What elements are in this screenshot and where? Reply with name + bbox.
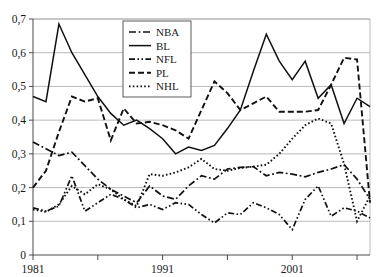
chart-legend: NBABLNFLPLNHL [123, 21, 191, 97]
x-axis: 198119912001 [22, 255, 371, 275]
y-tick-label: 0,5 [12, 80, 27, 93]
legend-label-bl: BL [156, 40, 170, 52]
y-tick-label: 0,6 [12, 47, 27, 60]
x-tick-label-2001: 2001 [281, 263, 304, 275]
series-line-bl [33, 24, 370, 154]
x-tick-label-1981: 1981 [22, 263, 45, 275]
y-tick-label: 0,4 [12, 114, 27, 127]
legend-label-nhl: NHL [156, 80, 179, 92]
y-tick-label: 0,1 [12, 215, 27, 228]
y-tick-label: 0,2 [12, 182, 27, 195]
y-tick-label: 0,3 [12, 148, 27, 161]
chart-canvas: 00,10,20,30,40,50,60,7 198119912001 NBAB… [0, 0, 382, 277]
series-lines [33, 24, 370, 230]
y-tick-label: 0 [20, 249, 26, 261]
legend-label-nba: NBA [156, 26, 179, 38]
series-line-nhl [33, 118, 370, 221]
legend-label-pl: PL [156, 67, 169, 79]
y-axis: 00,10,20,30,40,50,60,7 [12, 13, 33, 261]
series-line-pl [33, 58, 370, 203]
legend-label-nfl: NFL [156, 53, 177, 65]
y-tick-label: 0,7 [12, 13, 27, 26]
plot-frame [33, 19, 370, 255]
line-chart: 00,10,20,30,40,50,60,7 198119912001 NBAB… [0, 0, 382, 277]
x-tick-label-1991: 1991 [151, 263, 174, 275]
